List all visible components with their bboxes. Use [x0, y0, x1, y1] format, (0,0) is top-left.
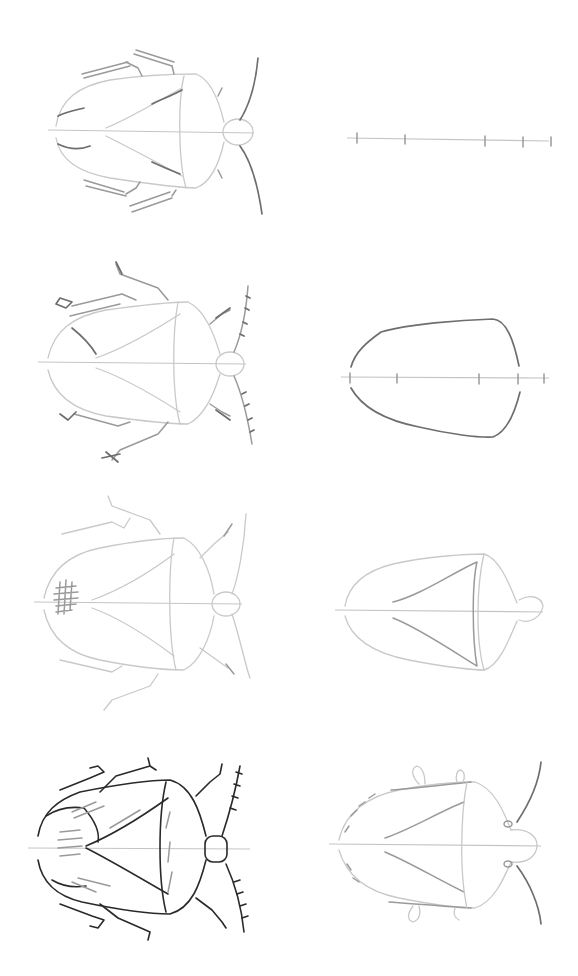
step-7-hatching-panel	[0, 488, 289, 732]
segments-drawing	[0, 244, 289, 488]
step-6-segments-panel	[0, 244, 289, 488]
step-1-centre-line-panel	[289, 0, 578, 244]
final-drawing	[0, 732, 289, 976]
pronotum-drawing	[289, 488, 578, 732]
wings-eyes-drawing	[289, 732, 578, 976]
body-outline-drawing	[289, 244, 578, 488]
step-3-pronotum-panel	[289, 488, 578, 732]
step-4-wings-eyes-panel	[289, 732, 578, 976]
step-2-body-outline-panel	[289, 244, 578, 488]
step-8-final-drawing-panel	[0, 732, 289, 976]
hatching-drawing	[0, 488, 289, 732]
centre-line-drawing	[289, 0, 578, 244]
legs-drawing	[0, 0, 289, 244]
step-5-legs-panel	[0, 0, 289, 244]
